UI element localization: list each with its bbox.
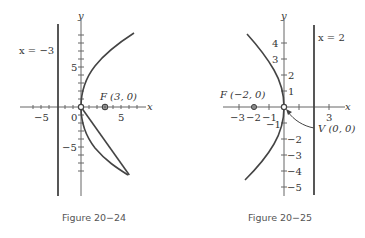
y-tick-label-neg5: −5 xyxy=(62,142,77,153)
figure-caption: Figure 20−24 xyxy=(62,212,126,223)
figure-caption: Figure 20−25 xyxy=(248,212,312,223)
x-tick-label-neg5: −5 xyxy=(34,112,49,123)
y-tick-label-neg2: −2 xyxy=(287,134,302,145)
y-tick-label-neg5: −5 xyxy=(287,182,302,193)
x-tick-label-neg2: −2 xyxy=(246,112,261,123)
vertex-point xyxy=(281,104,286,109)
y-tick-label-neg3: −3 xyxy=(287,150,302,161)
vertex-arrow xyxy=(288,112,314,128)
directrix-label: x = −3 xyxy=(19,45,54,56)
vertex-label: V (0, 0) xyxy=(318,123,355,134)
x-axis-label: x xyxy=(345,101,351,112)
vertex-point xyxy=(78,104,83,109)
y-axis-label: y xyxy=(280,10,287,21)
figure-20-25: x −3 −2 −1 3 y 4 3 2 1 −1 −2 − xyxy=(219,10,355,223)
y-tick-label-neg1: −1 xyxy=(266,119,281,130)
x-tick-label-pos3: 3 xyxy=(326,112,332,123)
y-tick-label-pos5: 5 xyxy=(71,62,77,73)
y-tick-label-2: 2 xyxy=(288,70,294,81)
y-tick-label-4: 4 xyxy=(272,38,278,49)
x-axis-label: x xyxy=(147,101,153,112)
y-tick-label-3: 3 xyxy=(272,54,278,65)
y-tick-label-1: 1 xyxy=(288,86,294,97)
x-tick-label-neg3: −3 xyxy=(230,112,245,123)
y-tick-label-neg4: −4 xyxy=(287,166,302,177)
figure-20-24: x −5 0 5 y xyxy=(19,10,153,223)
focus-label: F (−2, 0) xyxy=(219,89,265,100)
focus-label: F (3, 0) xyxy=(99,91,137,102)
y-axis-label: y xyxy=(77,10,84,21)
arrowhead-icon xyxy=(286,109,292,115)
x-tick-label-zero: 0 xyxy=(71,112,77,123)
focus-point xyxy=(251,104,256,109)
figures-canvas: x −5 0 5 y xyxy=(0,0,365,238)
x-tick-label-pos5: 5 xyxy=(118,112,124,123)
directrix-label: x = 2 xyxy=(318,32,345,43)
